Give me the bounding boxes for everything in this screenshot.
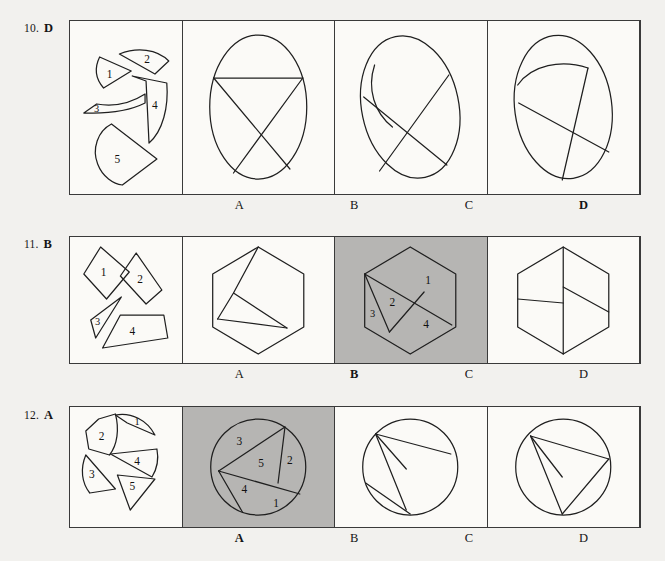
row-12-letter-d: D (526, 532, 641, 545)
row-12-option-c-figure (488, 407, 639, 527)
row-12-option-b[interactable] (335, 407, 487, 527)
row-11-piece-label-3: 3 (95, 316, 100, 327)
row-10-option-a-figure (183, 21, 334, 194)
row-10-pieces-figure: 1 2 3 4 5 (70, 21, 182, 194)
row-11-letter-b: B (297, 368, 412, 381)
row-12-letter-b: B (297, 532, 412, 545)
row-12-piece-label-5: 5 (129, 480, 135, 492)
row-11-label: 11.B (24, 237, 52, 252)
row-10-letter-c: C (412, 199, 527, 212)
row-12-region-label-3: 3 (236, 435, 242, 447)
question-row-10: 10.D 1 2 3 4 (0, 0, 665, 220)
row-11-option-c-figure (488, 237, 639, 363)
row-10-option-b-figure (335, 21, 486, 194)
row-12-piece-label-3: 3 (89, 468, 95, 480)
row-11-region-label-1: 1 (425, 274, 431, 286)
row-12-option-a[interactable]: 3 5 2 4 1 (183, 407, 335, 527)
worksheet-page: 10.D 1 2 3 4 (0, 0, 665, 561)
row-12-option-c[interactable] (488, 407, 640, 527)
row-12-answer: A (44, 408, 53, 422)
row-11-panels: 1 2 3 4 (69, 236, 641, 364)
row-10-piece-label-3: 3 (94, 103, 99, 114)
row-12-panels: 1 2 3 4 5 (69, 406, 641, 528)
row-11-piece-label-2: 2 (137, 273, 143, 285)
row-11-region-label-4: 4 (423, 318, 429, 330)
row-12-piece-label-4: 4 (134, 455, 140, 467)
row-11-region-label-2: 2 (390, 296, 396, 308)
row-10-piece-label-1: 1 (107, 68, 113, 80)
row-10-piece-label-5: 5 (115, 153, 121, 165)
row-10-letter-a: A (182, 199, 297, 212)
row-11-option-letters: A B C D (182, 368, 641, 381)
row-12-region-label-1: 1 (273, 497, 279, 509)
question-row-12: 12.A 1 2 3 4 (0, 390, 665, 561)
row-11-piece-label-4: 4 (129, 325, 135, 337)
row-11-pieces-figure: 1 2 3 4 (70, 237, 182, 363)
row-10-option-letters: A B C D (182, 199, 641, 212)
row-12-letter-a: A (182, 532, 297, 545)
row-10-number: 10. (24, 22, 39, 34)
row-10-panels: 1 2 3 4 5 (69, 20, 641, 195)
row-12-pieces-panel: 1 2 3 4 5 (70, 407, 183, 527)
row-12-option-a-figure: 3 5 2 4 1 (183, 407, 334, 527)
row-10-piece-label-4: 4 (152, 99, 158, 111)
row-11-number: 11. (24, 238, 39, 250)
row-11-option-c[interactable] (488, 237, 640, 363)
row-11-answer: B (44, 237, 53, 251)
row-12-piece-label-1: 1 (135, 416, 140, 427)
row-12-letter-c: C (412, 532, 527, 545)
row-10-letter-b: B (297, 199, 412, 212)
row-12-label: 12.A (24, 408, 53, 423)
row-12-piece-label-2: 2 (99, 430, 105, 442)
question-row-11: 11.B 1 2 3 4 (0, 220, 665, 390)
row-10-option-c-figure (488, 21, 639, 194)
row-11-region-label-3: 3 (370, 308, 375, 319)
row-11-letter-d: D (526, 368, 641, 381)
row-11-letter-a: A (182, 368, 297, 381)
row-10-label: 10.D (24, 21, 53, 36)
row-11-letter-c: C (412, 368, 527, 381)
row-10-option-a[interactable] (183, 21, 335, 194)
row-11-option-a-figure (183, 237, 334, 363)
row-12-region-label-5: 5 (258, 457, 264, 469)
row-12-region-label-2: 2 (287, 454, 293, 466)
row-11-option-b[interactable]: 1 2 3 4 (335, 237, 487, 363)
row-10-option-b[interactable] (335, 21, 487, 194)
row-11-option-a[interactable] (183, 237, 335, 363)
row-10-pieces-panel: 1 2 3 4 5 (70, 21, 183, 194)
row-10-answer: D (44, 21, 53, 35)
row-12-region-label-4: 4 (241, 483, 247, 495)
row-11-piece-label-1: 1 (101, 266, 107, 278)
row-11-pieces-panel: 1 2 3 4 (70, 237, 183, 363)
row-12-option-letters: A B C D (182, 532, 641, 545)
row-10-option-c[interactable] (488, 21, 640, 194)
row-10-letter-d: D (526, 199, 641, 212)
row-12-number: 12. (24, 409, 39, 421)
row-11-option-b-figure: 1 2 3 4 (335, 237, 486, 363)
row-12-option-b-figure (335, 407, 486, 527)
row-10-piece-label-2: 2 (144, 53, 150, 65)
row-12-pieces-figure: 1 2 3 4 5 (70, 407, 182, 527)
